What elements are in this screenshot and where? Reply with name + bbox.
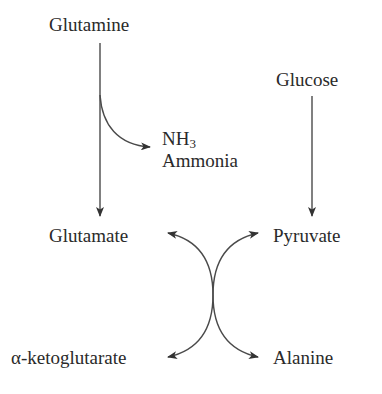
metabolic-pathway-diagram: Glutamine Glucose NH3 Ammonia Glutamate … bbox=[0, 0, 382, 394]
glutamine-label: Glutamine bbox=[49, 15, 129, 34]
glutamate-label: Glutamate bbox=[49, 226, 128, 245]
transamination-arrow-to-alanine bbox=[213, 295, 258, 357]
alpha-ketoglutarate-label: α-ketoglutarate bbox=[11, 348, 126, 367]
transamination-arrow-to-pyruvate bbox=[213, 233, 258, 295]
nh3-label: NH3 bbox=[162, 129, 196, 148]
nh3-formula: NH bbox=[162, 128, 189, 149]
transamination-arrow-to-alpha-ketoglutarate bbox=[168, 295, 213, 357]
alanine-label: Alanine bbox=[273, 348, 333, 367]
arrows-layer bbox=[0, 0, 382, 394]
nh3-subscript: 3 bbox=[189, 136, 196, 151]
ammonia-release-arrow bbox=[100, 95, 150, 147]
transamination-arrow-to-glutamate bbox=[168, 233, 213, 295]
pyruvate-label: Pyruvate bbox=[273, 226, 341, 245]
glucose-label: Glucose bbox=[276, 70, 338, 89]
ammonia-label: Ammonia bbox=[162, 151, 238, 170]
